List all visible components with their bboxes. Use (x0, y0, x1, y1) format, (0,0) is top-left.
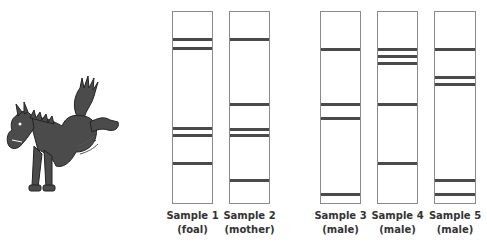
dna-band (173, 38, 212, 41)
lane-label-2: Sample 2(mother) (215, 209, 285, 237)
gel-lane-2 (229, 11, 270, 204)
dna-band (378, 62, 417, 65)
dna-band (378, 48, 417, 51)
dna-band (230, 38, 269, 41)
horse-icon (0, 70, 125, 202)
dna-band (378, 103, 417, 106)
dna-band (435, 48, 475, 51)
sample-subject: (male) (420, 223, 487, 237)
dna-band (321, 48, 360, 51)
dna-band (321, 193, 360, 196)
gel-lane-1 (172, 11, 213, 204)
dna-band (321, 103, 360, 106)
dna-band (173, 162, 212, 165)
gel-lane-3 (320, 11, 361, 204)
dna-band (230, 103, 269, 106)
dna-band (230, 128, 269, 131)
gel-lane-4 (377, 11, 418, 204)
dna-band (321, 117, 360, 120)
dna-band (378, 162, 417, 165)
lane-label-5: Sample 5(male) (420, 209, 487, 237)
sample-subject: (mother) (215, 223, 285, 237)
dna-band (435, 83, 475, 86)
dna-band (435, 76, 475, 79)
dna-band (378, 55, 417, 58)
dna-band (173, 134, 212, 137)
gel-lane-5 (434, 11, 476, 204)
dna-band (230, 179, 269, 182)
dna-band (435, 193, 475, 196)
dna-band (230, 134, 269, 137)
sample-name: Sample 5 (420, 209, 487, 223)
sample-name: Sample 2 (215, 209, 285, 223)
dna-band (173, 127, 212, 130)
horse-illustration (0, 70, 125, 202)
dna-band (173, 47, 212, 50)
dna-band (435, 179, 475, 182)
